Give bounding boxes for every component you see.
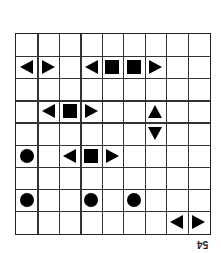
- puzzle-grid: [15, 33, 211, 235]
- triangle-right-icon: [192, 215, 205, 229]
- circle-icon: [20, 149, 34, 163]
- square-icon: [63, 104, 77, 118]
- grid-cell: [16, 56, 37, 78]
- grid-cell: [145, 122, 166, 144]
- triangle-left-icon: [42, 104, 55, 118]
- grid-cell: [123, 56, 144, 78]
- triangle-left-icon: [85, 60, 98, 74]
- triangle-right-icon: [149, 60, 162, 74]
- circle-icon: [20, 193, 34, 207]
- grid-cell: [188, 211, 209, 233]
- grid-line: [166, 34, 167, 234]
- grid-cell: [37, 100, 58, 122]
- grid-cell: [80, 145, 101, 167]
- square-icon: [105, 60, 119, 74]
- grid-cell: [145, 56, 166, 78]
- grid-line: [16, 167, 210, 168]
- grid-cell: [80, 100, 101, 122]
- circle-icon: [127, 193, 141, 207]
- triangle-right-icon: [85, 104, 98, 118]
- grid-line: [16, 122, 210, 123]
- triangle-left-icon: [20, 60, 33, 74]
- triangle-right-icon: [42, 60, 55, 74]
- grid-cell: [16, 189, 37, 211]
- grid-line: [16, 189, 210, 190]
- circle-icon: [84, 193, 98, 207]
- square-icon: [84, 149, 98, 163]
- grid-cell: [80, 56, 101, 78]
- square-icon: [127, 60, 141, 74]
- grid-cell: [102, 145, 123, 167]
- grid-line: [59, 34, 60, 234]
- grid-line: [188, 34, 189, 234]
- page-number: 54: [197, 239, 208, 250]
- triangle-left-icon: [170, 215, 183, 229]
- grid-cell: [80, 189, 101, 211]
- grid-cell: [59, 100, 80, 122]
- grid-cell: [16, 145, 37, 167]
- triangle-left-icon: [63, 149, 76, 163]
- grid-line: [16, 78, 210, 79]
- triangle-up-icon: [148, 105, 162, 118]
- grid-cell: [102, 56, 123, 78]
- grid-cell: [145, 100, 166, 122]
- grid-cell: [37, 56, 58, 78]
- triangle-right-icon: [106, 149, 119, 163]
- grid-cell: [166, 211, 187, 233]
- grid-cell: [59, 145, 80, 167]
- triangle-down-icon: [148, 127, 162, 140]
- grid-cell: [123, 189, 144, 211]
